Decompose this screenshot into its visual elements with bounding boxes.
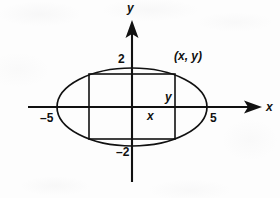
x-tick-label-negative-5: –5: [40, 112, 53, 124]
y-axis-label: y: [127, 2, 134, 14]
x-tick-label-5: 5: [210, 112, 217, 124]
figure-canvas: y x 2 –2 –5 5 (x, y) y x: [0, 0, 280, 198]
point-coordinate-label: (x, y): [174, 50, 202, 62]
y-tick-label-2: 2: [118, 53, 125, 65]
x-axis-label: x: [266, 101, 273, 113]
rectangle-half-width-label: x: [147, 110, 154, 122]
coordinate-plane-graphic: [0, 0, 280, 198]
y-tick-label-negative-2: –2: [116, 146, 129, 158]
rectangle-half-height-label: y: [165, 91, 172, 103]
